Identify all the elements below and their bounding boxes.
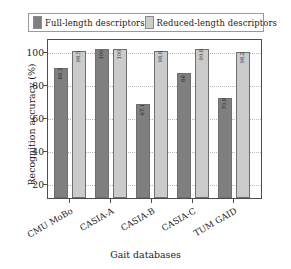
y-axis-title: Recognition accuracy (%) — [26, 50, 37, 200]
bar-chart-figure: Full-length descriptors Reduced-length d… — [0, 0, 291, 269]
plot-area: 88.3 98.5 100 100 67.1 98.8 86 99.8 70.8 — [47, 39, 262, 199]
bar-value-casia-b-full: 67.1 — [140, 104, 145, 116]
chart-legend: Full-length descriptors Reduced-length d… — [28, 13, 264, 32]
bar-value-casia-c-full: 86 — [181, 75, 186, 82]
bar-cmu-mobo-reduced: 98.5 — [72, 51, 86, 198]
bar-value-cmu-mobo-full: 88.3 — [58, 68, 63, 80]
bar-casia-c-reduced: 99.8 — [195, 49, 209, 198]
legend-label-full-length: Full-length descriptors — [45, 18, 145, 28]
legend-entry-reduced-length: Reduced-length descriptors — [145, 16, 277, 29]
bar-value-tum-gaid-reduced: 98.2 — [240, 51, 245, 63]
bar-value-tum-gaid-full: 70.8 — [222, 98, 227, 110]
x-tick-mark-casia-b — [151, 199, 152, 203]
x-axis-title: Gait databases — [0, 249, 291, 260]
bar-value-casia-b-reduced: 98.8 — [158, 50, 163, 62]
bar-value-cmu-mobo-reduced: 98.5 — [76, 51, 81, 63]
legend-entry-full-length: Full-length descriptors — [33, 16, 145, 29]
bar-casia-b-full: 67.1 — [136, 104, 150, 198]
bar-casia-a-reduced: 100 — [113, 49, 127, 199]
bar-tum-gaid-full: 70.8 — [218, 98, 232, 198]
bar-casia-a-full: 100 — [95, 49, 109, 199]
bar-casia-c-full: 86 — [177, 73, 191, 198]
bar-casia-b-reduced: 98.8 — [154, 51, 168, 199]
x-tick-mark-casia-c — [192, 199, 193, 203]
y-tick-label-100: 100 — [26, 47, 44, 58]
bar-tum-gaid-reduced: 98.2 — [236, 52, 250, 199]
bar-cmu-mobo-full: 88.3 — [54, 68, 68, 198]
x-tick-mark-tum-gaid — [233, 199, 234, 203]
bar-value-casia-c-reduced: 99.8 — [199, 49, 204, 61]
legend-swatch-dark-icon — [33, 16, 42, 29]
legend-label-reduced-length: Reduced-length descriptors — [157, 18, 277, 28]
legend-swatch-light-icon — [145, 16, 154, 29]
bar-value-casia-a-full: 100 — [99, 49, 104, 59]
x-tick-mark-casia-a — [110, 199, 111, 203]
bar-value-casia-a-reduced: 100 — [117, 49, 122, 59]
x-tick-mark-cmu-mobo — [69, 199, 70, 203]
